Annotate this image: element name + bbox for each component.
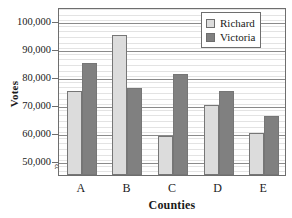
x-axis-tick-label: C — [168, 181, 176, 195]
y-axis-tick-label: 100,000 — [17, 17, 51, 28]
bar-group — [150, 9, 196, 175]
x-axis-tick-label: D — [213, 181, 222, 195]
x-axis-tick-label: A — [76, 181, 85, 195]
y-axis-tick-label: 80,000 — [22, 73, 51, 84]
bar-e-richard — [249, 133, 264, 175]
bar-group — [105, 9, 151, 175]
bar-a-victoria — [82, 63, 97, 175]
bar-chart: Votes 50,00060,00070,00080,00090,000100,… — [0, 0, 292, 218]
bar-group — [59, 9, 105, 175]
x-axis-tick-labels: ABCDE — [58, 181, 286, 197]
legend-item-richard: Richard — [206, 16, 255, 30]
bar-b-victoria — [127, 88, 142, 175]
legend-swatch-icon — [206, 19, 215, 28]
y-axis-tick-label: 90,000 — [22, 45, 51, 56]
y-axis-tick-label: 70,000 — [22, 101, 51, 112]
x-axis-title: Counties — [58, 198, 286, 213]
legend-item-victoria: Victoria — [206, 30, 255, 44]
bar-c-richard — [158, 136, 173, 175]
legend-label: Richard — [220, 17, 255, 29]
bar-d-richard — [204, 105, 219, 175]
x-axis-tick-label: B — [122, 181, 130, 195]
bar-c-victoria — [173, 74, 188, 175]
x-axis-tick-label: E — [260, 181, 267, 195]
legend-swatch-icon — [206, 33, 215, 42]
legend: RichardVictoria — [201, 12, 261, 48]
legend-label: Victoria — [220, 31, 255, 43]
bar-e-victoria — [264, 116, 279, 175]
y-axis-tick-label: 50,000 — [22, 157, 51, 168]
bar-a-richard — [67, 91, 82, 175]
bar-d-victoria — [219, 91, 234, 175]
y-axis-tick-label: 60,000 — [22, 129, 51, 140]
y-axis-tick-labels: 50,00060,00070,00080,00090,000100,000 — [0, 0, 57, 218]
bar-b-richard — [112, 35, 127, 175]
